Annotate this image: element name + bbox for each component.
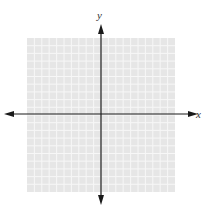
y-axis-label: y	[97, 10, 102, 21]
coordinate-plane	[0, 0, 206, 209]
x-axis-left-arrow-icon	[4, 111, 14, 117]
y-axis-up-arrow-icon	[98, 24, 104, 34]
y-axis-down-arrow-icon	[98, 195, 104, 205]
x-axis-label: x	[196, 109, 201, 120]
